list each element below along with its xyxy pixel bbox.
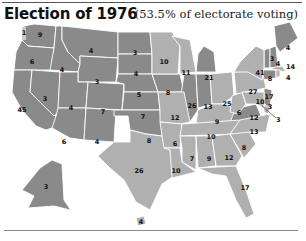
- label-ri: 4: [286, 74, 291, 82]
- label-va: 12: [249, 114, 258, 122]
- label-il: 26: [187, 102, 197, 110]
- label-nm: 4: [95, 138, 100, 146]
- label-az: 6: [62, 138, 67, 146]
- label-ut: 4: [69, 104, 74, 112]
- label-oh: 25: [222, 100, 232, 108]
- state-co: [86, 82, 124, 110]
- label-ks: 7: [141, 113, 146, 121]
- us-electoral-map: 1 9 6 45 4 3 4 3 4 6 7 4 3 4 5 7 8 26 10…: [0, 0, 306, 241]
- label-wy: 3: [95, 78, 100, 86]
- label-ia: 8: [166, 89, 171, 97]
- label-wv: 6: [237, 109, 242, 117]
- label-ma: 14: [286, 63, 296, 71]
- label-mo: 12: [170, 114, 179, 122]
- label-nh: 4: [276, 60, 281, 68]
- label-mn: 10: [159, 58, 169, 66]
- label-fl: 17: [240, 184, 249, 192]
- label-nc: 13: [249, 128, 258, 136]
- label-tx: 26: [134, 167, 144, 175]
- state-az: [52, 108, 86, 140]
- label-pa: 27: [248, 88, 257, 96]
- label-ky: 9: [215, 118, 220, 126]
- label-wa: 9: [38, 31, 43, 39]
- label-ca: 45: [17, 106, 27, 114]
- label-al: 9: [207, 155, 212, 163]
- label-vt: 3: [270, 55, 275, 63]
- state-ar: [160, 122, 182, 148]
- label-me: 4: [286, 44, 291, 52]
- label-la: 10: [171, 167, 181, 175]
- label-mi: 21: [204, 74, 214, 82]
- state-ak: [22, 160, 76, 218]
- label-sc: 8: [242, 144, 247, 152]
- label-mt: 4: [89, 47, 94, 55]
- label-md: 10: [255, 98, 265, 106]
- label-wi: 11: [181, 69, 191, 77]
- label-ct: 8: [268, 75, 273, 83]
- label-co: 7: [101, 108, 106, 116]
- label-wa-faithless: 1: [22, 29, 27, 37]
- label-ar: 6: [173, 140, 178, 148]
- label-tn: 10: [206, 133, 216, 141]
- state-fl: [198, 166, 254, 218]
- label-ak: 3: [44, 183, 49, 191]
- label-nd: 3: [133, 49, 138, 57]
- label-dc: 3: [276, 116, 281, 124]
- label-ne: 5: [137, 91, 142, 99]
- label-sd: 4: [134, 70, 139, 78]
- label-or: 6: [30, 58, 35, 66]
- label-nj: 17: [264, 93, 273, 101]
- state-mi: [196, 46, 216, 72]
- label-ny: 41: [255, 69, 265, 77]
- label-de: 3: [268, 103, 273, 111]
- label-ga: 12: [224, 154, 233, 162]
- bottom-rule: [4, 230, 298, 231]
- label-hi: 4: [139, 218, 144, 226]
- label-nv: 3: [43, 95, 48, 103]
- label-id: 4: [60, 66, 65, 74]
- label-ok: 8: [147, 137, 152, 145]
- state-ri: [276, 70, 280, 78]
- label-in: 13: [203, 103, 212, 111]
- label-ms: 7: [190, 155, 195, 163]
